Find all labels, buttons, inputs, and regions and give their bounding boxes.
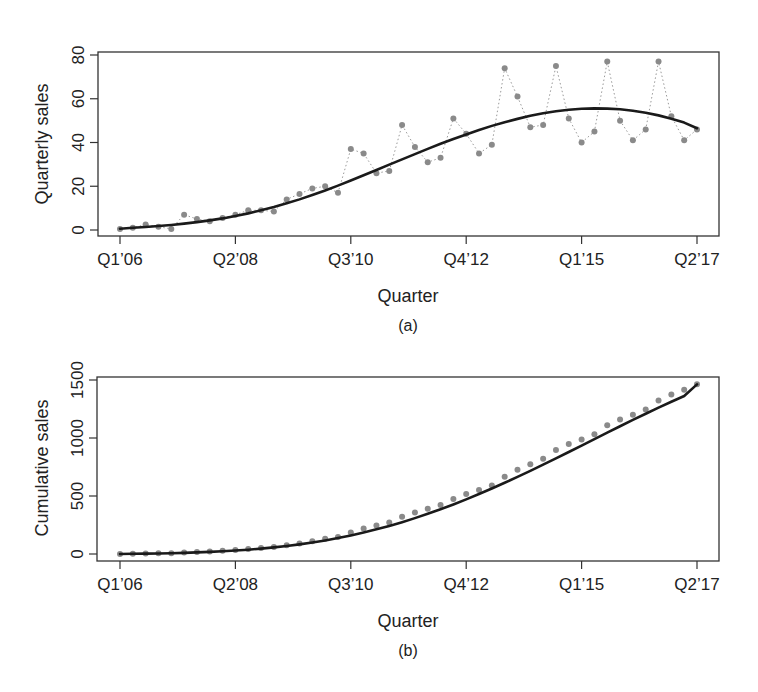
data-point [489, 142, 495, 148]
x-tick-label: Q3’10 [328, 250, 373, 269]
data-point [412, 144, 418, 150]
panel-b-cumulative-sales: 050010001500 Q1’06Q2’08Q3’10Q4’12Q1’15Q2… [32, 361, 720, 659]
observed-dotted-line-a [120, 62, 697, 229]
x-tick-label: Q3’10 [328, 575, 373, 594]
plot-frame-b [97, 377, 719, 561]
y-tick-label: 0 [68, 549, 87, 558]
data-point [399, 122, 405, 128]
data-point [348, 146, 354, 152]
data-point [540, 456, 546, 462]
observed-points-b [117, 381, 700, 557]
data-point [425, 506, 431, 512]
figure: 020406080 Q1’06Q2’08Q3’10Q4’12Q1’15Q2’17… [0, 0, 758, 692]
data-point [386, 168, 392, 174]
y-tick-label: 20 [69, 177, 88, 196]
x-axis-a: Q1’06Q2’08Q3’10Q4’12Q1’15Q2’17 [97, 236, 719, 269]
data-point [617, 118, 623, 124]
data-point [514, 94, 520, 100]
data-point [617, 416, 623, 422]
observed-points-a [117, 59, 700, 232]
x-tick-label: Q4’12 [444, 575, 489, 594]
y-tick-label: 1000 [68, 419, 87, 457]
x-axis-title-a: Quarter [377, 286, 438, 306]
data-point [579, 140, 585, 146]
x-axis-b: Q1’06Q2’08Q3’10Q4’12Q1’15Q2’17 [97, 561, 719, 594]
x-tick-label: Q1’15 [559, 250, 604, 269]
data-point [309, 185, 315, 191]
data-point [450, 115, 456, 121]
x-tick-label: Q1’06 [97, 250, 142, 269]
data-point [604, 422, 610, 428]
x-tick-label: Q2’08 [213, 250, 258, 269]
data-point [463, 491, 469, 497]
x-axis-title-b: Quarter [377, 611, 438, 631]
data-point [361, 150, 367, 156]
x-tick-label: Q1’06 [97, 575, 142, 594]
data-point [399, 514, 405, 520]
data-point [514, 467, 520, 473]
panel-a-quarterly-sales: 020406080 Q1’06Q2’08Q3’10Q4’12Q1’15Q2’17… [32, 46, 720, 334]
y-tick-label: 0 [69, 225, 88, 234]
data-point [566, 115, 572, 121]
data-point [168, 226, 174, 232]
data-point [527, 461, 533, 467]
data-point [643, 126, 649, 132]
data-point [361, 526, 367, 532]
caption-a: (a) [398, 317, 418, 334]
y-tick-label: 500 [68, 482, 87, 510]
data-point [502, 65, 508, 71]
x-tick-label: Q1’15 [559, 575, 604, 594]
x-tick-label: Q4’12 [444, 250, 489, 269]
y-axis-title-a: Quarterly sales [32, 83, 52, 204]
y-axis-title-b: Cumulative sales [32, 399, 52, 536]
x-tick-label: Q2’17 [674, 250, 719, 269]
data-point [181, 212, 187, 218]
data-point [579, 436, 585, 442]
y-axis-b: 050010001500 [68, 361, 97, 559]
fitted-curve-a [120, 108, 697, 228]
data-point [591, 129, 597, 135]
plot-frame-a [98, 52, 719, 236]
data-point [681, 387, 687, 393]
data-point [681, 137, 687, 143]
data-point [271, 208, 277, 214]
data-point [566, 441, 572, 447]
caption-b: (b) [398, 642, 418, 659]
data-point [591, 431, 597, 437]
data-point [425, 159, 431, 165]
y-tick-label: 80 [69, 46, 88, 65]
data-point [438, 155, 444, 161]
data-point [656, 59, 662, 65]
data-point [630, 412, 636, 418]
x-tick-label: Q2’17 [674, 575, 719, 594]
data-point [412, 509, 418, 515]
y-tick-label: 40 [69, 133, 88, 152]
y-tick-label: 60 [69, 89, 88, 108]
data-point [502, 474, 508, 480]
data-point [476, 150, 482, 156]
data-point [335, 190, 341, 196]
data-point [553, 63, 559, 69]
data-point [604, 59, 610, 65]
y-axis-a: 020406080 [69, 46, 98, 235]
data-point [630, 137, 636, 143]
data-point [297, 191, 303, 197]
data-point [450, 496, 456, 502]
data-point [668, 391, 674, 397]
data-point [553, 447, 559, 453]
fitted-curve-b [120, 384, 697, 554]
data-point [527, 124, 533, 130]
y-tick-label: 1500 [68, 361, 87, 399]
x-tick-label: Q2’08 [213, 575, 258, 594]
data-point [656, 397, 662, 403]
data-point [540, 122, 546, 128]
